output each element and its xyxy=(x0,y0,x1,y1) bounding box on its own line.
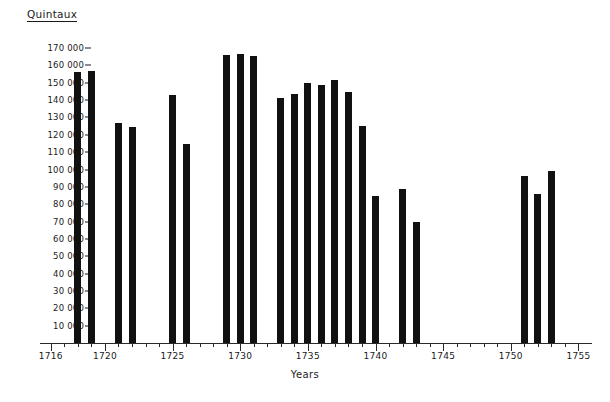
x-tick-minor xyxy=(484,343,485,347)
x-tick-minor xyxy=(91,343,92,347)
x-tick-major xyxy=(105,343,106,351)
x-axis-title: Years xyxy=(0,369,610,380)
x-tick-minor xyxy=(186,343,187,347)
bar xyxy=(277,98,284,343)
bar xyxy=(88,71,95,343)
bar xyxy=(548,171,555,343)
bar xyxy=(534,194,541,343)
x-tick-major xyxy=(511,343,512,351)
bar xyxy=(521,176,528,343)
x-tick-minor xyxy=(348,343,349,347)
bar xyxy=(331,80,338,343)
bar xyxy=(372,196,379,343)
x-tick-label: 1745 xyxy=(431,351,455,361)
x-tick-major xyxy=(443,343,444,351)
x-tick-minor xyxy=(457,343,458,347)
bar xyxy=(318,85,325,343)
x-tick-label: 1750 xyxy=(499,351,523,361)
x-tick-minor xyxy=(294,343,295,347)
bar xyxy=(237,54,244,343)
x-tick-minor xyxy=(497,343,498,347)
x-tick-label: 1730 xyxy=(228,351,252,361)
x-tick-major xyxy=(173,343,174,351)
x-tick-major xyxy=(308,343,309,351)
bar xyxy=(183,144,190,343)
x-tick-minor xyxy=(118,343,119,347)
bar xyxy=(223,55,230,343)
x-tick-minor xyxy=(362,343,363,347)
x-tick-minor xyxy=(281,343,282,347)
x-tick-label: 1720 xyxy=(93,351,117,361)
x-tick-minor xyxy=(132,343,133,347)
x-tick-minor xyxy=(213,343,214,347)
x-tick-minor xyxy=(389,343,390,347)
x-tick-label: 1755 xyxy=(566,351,590,361)
bar xyxy=(345,92,352,343)
bar xyxy=(304,83,311,343)
bar xyxy=(169,95,176,343)
x-tick-minor xyxy=(159,343,160,347)
x-tick-minor xyxy=(538,343,539,347)
x-tick-label: 1740 xyxy=(363,351,387,361)
x-tick-major xyxy=(578,343,579,351)
x-tick-minor xyxy=(321,343,322,347)
x-tick-minor xyxy=(78,343,79,347)
x-tick-minor xyxy=(64,343,65,347)
x-tick-minor xyxy=(254,343,255,347)
bar xyxy=(399,189,406,343)
x-tick-label: 1725 xyxy=(161,351,185,361)
x-tick-major xyxy=(51,343,52,351)
x-tick-minor xyxy=(267,343,268,347)
x-tick-minor xyxy=(430,343,431,347)
bar xyxy=(413,222,420,343)
x-tick-minor xyxy=(565,343,566,347)
x-tick-major xyxy=(376,343,377,351)
x-tick-label: 1716 xyxy=(39,351,63,361)
bar xyxy=(291,94,298,343)
bar-chart: Quintaux 170 000160 000150 000140 000130… xyxy=(0,0,610,402)
bar xyxy=(359,126,366,343)
x-tick-minor xyxy=(200,343,201,347)
x-tick-minor xyxy=(146,343,147,347)
x-tick-minor xyxy=(227,343,228,347)
plot-area: 170 000160 000150 000140 000130 000120 0… xyxy=(0,0,610,402)
x-tick-minor xyxy=(403,343,404,347)
bar xyxy=(74,72,81,343)
bar xyxy=(250,56,257,343)
x-tick-minor xyxy=(551,343,552,347)
x-axis-line xyxy=(40,343,592,344)
x-tick-label: 1735 xyxy=(296,351,320,361)
x-tick-minor xyxy=(524,343,525,347)
bar xyxy=(129,127,136,343)
x-tick-minor xyxy=(335,343,336,347)
x-tick-major xyxy=(240,343,241,351)
bar xyxy=(115,123,122,343)
x-tick-minor xyxy=(470,343,471,347)
x-tick-minor xyxy=(416,343,417,347)
bars-layer xyxy=(0,0,610,343)
